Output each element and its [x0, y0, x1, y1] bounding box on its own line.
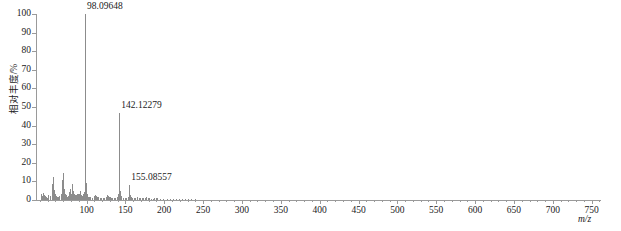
x-tick-140 [118, 200, 119, 202]
x-tick-610 [483, 200, 484, 202]
x-tick-340 [273, 200, 274, 202]
x-tick-270 [219, 200, 220, 202]
y-tick-label-20: 20 [0, 158, 31, 167]
x-tick-460 [366, 200, 367, 202]
x-tick-370 [296, 200, 297, 202]
x-axis-line [36, 200, 601, 201]
peak-line [188, 199, 189, 200]
peak-line [167, 199, 168, 200]
x-tick-110 [94, 200, 95, 202]
x-tick-label-750: 750 [572, 205, 612, 215]
x-tick-440 [351, 200, 352, 202]
x-tick-740 [584, 200, 585, 202]
x-tick-170 [141, 200, 142, 202]
x-tick-label-500: 500 [377, 205, 417, 215]
peak-line [191, 199, 192, 200]
mass-spectrum-figure: 相对丰度/% m/z 0102030405060708090100 100150… [0, 0, 621, 231]
x-tick-300 [242, 200, 243, 204]
x-tick-150 [125, 200, 126, 204]
x-tick-200 [164, 200, 165, 204]
x-tick-label-200: 200 [144, 205, 184, 215]
y-tick-label-100: 100 [0, 9, 31, 18]
x-tick-570 [452, 200, 453, 202]
x-tick-710 [561, 200, 562, 202]
peak-line [85, 14, 86, 200]
x-tick-60 [55, 200, 56, 202]
peak-line [157, 198, 158, 200]
x-tick-210 [172, 200, 173, 202]
peak-line [179, 199, 180, 200]
peak-line [182, 199, 183, 200]
x-tick-240 [195, 200, 196, 202]
x-tick-330 [265, 200, 266, 202]
x-tick-70 [63, 200, 64, 202]
x-tick-530 [421, 200, 422, 202]
peak-line [185, 199, 186, 200]
x-tick-120 [102, 200, 103, 202]
y-tick-label-50: 50 [0, 102, 31, 111]
x-tick-380 [304, 200, 305, 202]
x-tick-label-650: 650 [494, 205, 534, 215]
peak-line [176, 199, 177, 200]
x-tick-450 [359, 200, 360, 204]
x-tick-label-700: 700 [533, 205, 573, 215]
peak-label-98.09648: 98.09648 [87, 1, 123, 11]
x-tick-label-300: 300 [222, 205, 262, 215]
x-tick-360 [289, 200, 290, 202]
x-tick-720 [568, 200, 569, 202]
x-tick-390 [312, 200, 313, 202]
peak-label-155.08557: 155.08557 [131, 172, 171, 182]
y-tick-label-0: 0 [0, 195, 31, 204]
peak-line [195, 199, 196, 200]
x-tick-680 [537, 200, 538, 202]
x-tick-80 [71, 200, 72, 202]
x-tick-310 [250, 200, 251, 202]
x-tick-320 [257, 200, 258, 202]
peak-line [119, 113, 120, 200]
x-tick-250 [203, 200, 204, 204]
peak-label-142.12279: 142.12279 [121, 100, 161, 110]
x-tick-700 [553, 200, 554, 204]
x-tick-550 [436, 200, 437, 204]
x-tick-160 [133, 200, 134, 202]
x-tick-350 [281, 200, 282, 204]
x-tick-220 [180, 200, 181, 202]
x-tick-510 [405, 200, 406, 202]
x-tick-500 [397, 200, 398, 204]
x-tick-130 [110, 200, 111, 202]
x-tick-430 [343, 200, 344, 202]
x-tick-620 [491, 200, 492, 202]
x-tick-400 [320, 200, 321, 204]
x-tick-690 [545, 200, 546, 202]
x-tick-label-100: 100 [67, 205, 107, 215]
y-tick-label-40: 40 [0, 121, 31, 130]
x-tick-230 [188, 200, 189, 202]
x-tick-520 [413, 200, 414, 202]
peak-line [173, 199, 174, 200]
x-tick-580 [460, 200, 461, 202]
x-tick-480 [382, 200, 383, 202]
x-tick-label-600: 600 [455, 205, 495, 215]
x-tick-490 [390, 200, 391, 202]
y-tick-label-70: 70 [0, 65, 31, 74]
x-tick-label-450: 450 [339, 205, 379, 215]
x-tick-260 [211, 200, 212, 202]
x-tick-560 [444, 200, 445, 202]
x-tick-180 [149, 200, 150, 202]
x-tick-50 [48, 200, 49, 202]
x-tick-540 [428, 200, 429, 202]
x-tick-280 [226, 200, 227, 202]
x-tick-290 [234, 200, 235, 202]
x-tick-470 [374, 200, 375, 202]
peak-line [163, 199, 164, 200]
x-tick-750 [592, 200, 593, 204]
x-tick-label-350: 350 [261, 205, 301, 215]
x-tick-label-150: 150 [105, 205, 145, 215]
x-tick-600 [475, 200, 476, 204]
x-tick-630 [498, 200, 499, 202]
x-tick-760 [599, 200, 600, 202]
x-tick-100 [87, 200, 88, 204]
x-tick-190 [156, 200, 157, 202]
x-tick-420 [335, 200, 336, 202]
y-tick-label-60: 60 [0, 83, 31, 92]
